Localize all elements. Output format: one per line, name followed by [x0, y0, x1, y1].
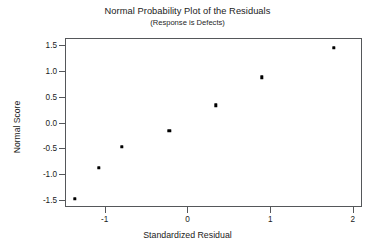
y-axis-tick	[59, 97, 65, 98]
data-point	[120, 145, 123, 148]
x-axis-tick	[353, 207, 354, 213]
y-axis-title: Normal Score	[12, 81, 22, 173]
y-axis-tick-label: -1.5	[17, 196, 57, 205]
data-point	[73, 197, 76, 200]
chart-subtitle: (Response is Defects)	[0, 18, 375, 28]
y-axis-tick	[59, 148, 65, 149]
y-axis-tick	[59, 45, 65, 46]
y-axis-tick-label: -0.5	[17, 144, 57, 153]
y-axis-tick	[59, 71, 65, 72]
normal-probability-plot-figure: Normal Probability Plot of the Residuals…	[0, 0, 375, 249]
data-point	[168, 129, 171, 132]
data-point	[260, 76, 263, 79]
data-point	[332, 46, 335, 49]
y-axis-tick-label: 1.0	[17, 66, 57, 75]
y-axis-tick	[59, 123, 65, 124]
data-point	[214, 104, 217, 107]
y-axis-tick-label: -1.0	[17, 170, 57, 179]
x-axis-tick-label: 0	[167, 215, 207, 224]
x-axis-tick	[105, 207, 106, 213]
x-axis-tick-label: 1	[250, 215, 290, 224]
x-axis-tick	[187, 207, 188, 213]
title-block: Normal Probability Plot of the Residuals…	[0, 6, 375, 28]
x-axis-tick	[270, 207, 271, 213]
y-axis-tick-label: 0.0	[17, 118, 57, 127]
x-axis-title: Standardized Residual	[0, 230, 375, 240]
x-axis-tick-label: 2	[333, 215, 373, 224]
chart-title: Normal Probability Plot of the Residuals	[0, 6, 375, 17]
y-axis-tick-label: 1.5	[17, 40, 57, 49]
y-axis-tick	[59, 200, 65, 201]
plot-area	[65, 38, 362, 207]
y-axis-tick	[59, 174, 65, 175]
y-axis-tick-label: 0.5	[17, 92, 57, 101]
data-point	[97, 166, 100, 169]
x-axis-tick-label: -1	[85, 215, 125, 224]
